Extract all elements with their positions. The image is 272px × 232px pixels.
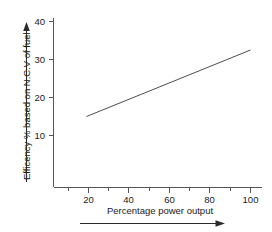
chart-background (0, 0, 272, 232)
y-tick-label-40: 40 (34, 16, 45, 27)
y-tick-label-30: 30 (34, 54, 45, 65)
chart-figure: 40 30 20 10 20 40 60 80 100 (0, 0, 272, 232)
x-tick-label-40: 40 (123, 194, 134, 205)
x-tick-label-20: 20 (83, 194, 94, 205)
y-tick-label-10: 10 (34, 130, 45, 141)
x-tick-label-100: 100 (243, 194, 259, 205)
y-axis-title-group: Efficency % based on N.C.V of fuel (21, 22, 32, 182)
efficiency-vs-power-line-chart: 40 30 20 10 20 40 60 80 100 (0, 0, 272, 232)
x-tick-label-60: 60 (164, 194, 175, 205)
y-tick-label-20: 20 (34, 92, 45, 103)
x-tick-label-80: 80 (204, 194, 215, 205)
x-axis-title: Percentage power output (107, 205, 214, 216)
